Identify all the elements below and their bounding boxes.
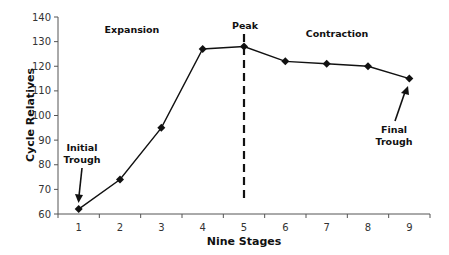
y-tick-label: 140 bbox=[32, 12, 51, 23]
contraction-label: Contraction bbox=[306, 28, 369, 39]
x-tick-label: 1 bbox=[75, 222, 81, 233]
x-tick-label: 7 bbox=[323, 222, 329, 233]
diamond-marker-icon bbox=[364, 62, 372, 70]
x-tick-label: 8 bbox=[365, 222, 371, 233]
x-tick-label: 6 bbox=[282, 222, 288, 233]
diamond-marker-icon bbox=[405, 75, 413, 83]
diamond-marker-icon bbox=[281, 57, 289, 65]
expansion-label: Expansion bbox=[105, 24, 160, 35]
y-tick-label: 90 bbox=[38, 135, 51, 146]
y-tick-label: 60 bbox=[38, 209, 51, 220]
x-tick-label: 4 bbox=[199, 222, 205, 233]
initial-trough-arrow bbox=[75, 168, 83, 203]
final-trough-label-line1: Final bbox=[381, 124, 407, 135]
x-tick-label: 9 bbox=[406, 222, 412, 233]
final-trough-arrow bbox=[395, 86, 409, 121]
initial-trough-label-line1: Initial bbox=[66, 142, 97, 153]
x-axis: 123456789 bbox=[58, 214, 430, 233]
cycle-chart: 60708090100110120130140 123456789 Cycle … bbox=[0, 0, 449, 255]
y-axis-title: Cycle Relatives bbox=[24, 67, 37, 162]
y-tick-label: 80 bbox=[38, 159, 51, 170]
peak-label: Peak bbox=[232, 20, 259, 31]
diamond-marker-icon bbox=[199, 45, 207, 53]
diamond-marker-icon bbox=[323, 60, 331, 68]
final-trough-label-line2: Trough bbox=[376, 136, 413, 147]
x-tick-label: 3 bbox=[158, 222, 164, 233]
y-tick-label: 130 bbox=[32, 36, 51, 47]
y-tick-label: 70 bbox=[38, 184, 51, 195]
x-tick-label: 2 bbox=[117, 222, 123, 233]
initial-trough-label-line2: Trough bbox=[64, 154, 101, 165]
x-axis-title: Nine Stages bbox=[207, 235, 282, 248]
x-tick-label: 5 bbox=[241, 222, 247, 233]
